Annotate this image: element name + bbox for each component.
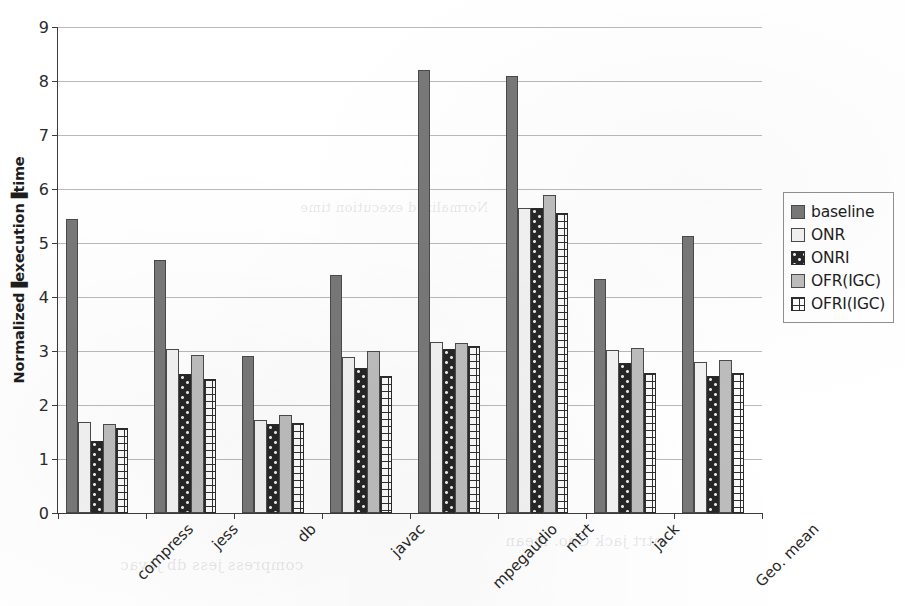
bar-group xyxy=(242,27,305,513)
y-axis-tick-label: 4 xyxy=(39,288,49,307)
legend-swatch-ofr-igc-icon xyxy=(791,274,805,288)
bar-group xyxy=(154,27,217,513)
x-axis-label-geo-mean: Geo. mean xyxy=(752,520,823,591)
bar-ofri-igc xyxy=(292,423,305,513)
x-axis-tick xyxy=(586,513,587,519)
bar-group xyxy=(330,27,393,513)
y-axis-tick xyxy=(52,405,58,406)
y-axis-tick xyxy=(52,189,58,190)
bar-baseline xyxy=(330,275,343,513)
chart-legend: baselineONRONRIOFR(IGC)OFRI(IGC) xyxy=(783,192,894,323)
bar-ofr-igc xyxy=(191,355,204,513)
bar-onri xyxy=(443,349,456,513)
y-axis-tick xyxy=(52,243,58,244)
bar-onri xyxy=(619,363,632,513)
x-axis-tick xyxy=(410,513,411,519)
bar-baseline xyxy=(418,70,431,513)
bar-onri xyxy=(531,208,544,513)
y-axis-tick xyxy=(52,351,58,352)
x-axis-tick xyxy=(322,513,323,519)
y-axis-tick-label: 5 xyxy=(39,234,49,253)
bar-ofri-igc xyxy=(116,428,129,513)
bar-ofr-igc xyxy=(279,415,292,513)
bar-onri xyxy=(267,424,280,513)
bar-onr xyxy=(78,422,91,513)
y-axis-tick xyxy=(52,81,58,82)
bar-ofr-igc xyxy=(543,195,556,513)
bar-onr xyxy=(606,350,619,513)
y-axis-tick xyxy=(52,297,58,298)
legend-label: OFRI(IGC) xyxy=(811,295,885,313)
y-axis-tick-label: 3 xyxy=(39,342,49,361)
legend-item-onr: ONR xyxy=(791,223,885,246)
bar-ofr-igc xyxy=(631,348,644,513)
y-axis-tick xyxy=(52,135,58,136)
bar-baseline xyxy=(594,279,607,513)
legend-item-ofr-igc: OFR(IGC) xyxy=(791,269,885,292)
bar-group xyxy=(66,27,129,513)
y-axis-tick-label: 1 xyxy=(39,450,49,469)
bar-onri xyxy=(355,368,368,513)
bar-baseline xyxy=(66,219,79,513)
bar-ofri-igc xyxy=(204,379,217,513)
x-axis-label-jack: jack xyxy=(648,520,682,554)
bar-baseline xyxy=(154,260,167,513)
legend-swatch-ofri-igc-icon xyxy=(791,297,805,311)
x-axis-label-db: db xyxy=(293,520,319,546)
bar-baseline xyxy=(242,356,255,513)
bar-onr xyxy=(694,362,707,513)
y-axis-tick xyxy=(52,459,58,460)
bar-ofr-igc xyxy=(367,351,380,513)
y-axis-tick-label: 2 xyxy=(39,396,49,415)
bar-ofr-igc xyxy=(455,343,468,513)
bar-baseline xyxy=(506,76,519,513)
y-axis-tick-label: 9 xyxy=(39,18,49,37)
bar-onr xyxy=(518,208,531,513)
bar-ofri-igc xyxy=(468,346,481,513)
bar-group xyxy=(506,27,569,513)
y-axis-tick-label: 0 xyxy=(39,504,49,523)
x-axis-tick xyxy=(674,513,675,519)
bar-group xyxy=(682,27,745,513)
x-axis-label-javac: javac xyxy=(387,520,428,561)
x-axis-label-mtrt: mtrt xyxy=(561,520,597,556)
x-axis-tick xyxy=(58,513,59,519)
x-axis-tick xyxy=(498,513,499,519)
x-axis-tick xyxy=(234,513,235,519)
bar-onr xyxy=(254,420,267,513)
legend-label: baseline xyxy=(811,203,874,221)
x-axis-tick xyxy=(146,513,147,519)
bar-ofri-igc xyxy=(732,373,745,513)
bar-ofri-igc xyxy=(644,373,657,513)
y-axis-tick xyxy=(52,27,58,28)
y-axis-tick-label: 6 xyxy=(39,180,49,199)
bar-onr xyxy=(430,342,443,513)
bar-ofri-igc xyxy=(380,376,393,513)
x-axis-label-jess: jess xyxy=(208,520,241,553)
x-axis-label-mpegaudio: mpegaudio xyxy=(488,520,560,592)
bar-onri xyxy=(91,441,104,513)
y-axis-tick-label: 8 xyxy=(39,72,49,91)
bar-ofr-igc xyxy=(719,360,732,513)
bar-ofri-igc xyxy=(556,213,569,513)
legend-item-ofri-igc: OFRI(IGC) xyxy=(791,292,885,315)
y-axis-tick-label: 7 xyxy=(39,126,49,145)
legend-label: ONRI xyxy=(811,249,849,267)
legend-label: OFR(IGC) xyxy=(811,272,881,290)
legend-swatch-onr-icon xyxy=(791,228,805,242)
x-axis-tick xyxy=(762,513,763,519)
bar-ofr-igc xyxy=(103,424,116,513)
bar-group xyxy=(418,27,481,513)
bar-onr xyxy=(166,349,179,513)
legend-swatch-baseline-icon xyxy=(791,205,805,219)
legend-label: ONR xyxy=(811,226,845,244)
bar-chart: Normalized▐execution▐time 0123456789 com… xyxy=(0,0,905,606)
bar-group xyxy=(594,27,657,513)
legend-item-baseline: baseline xyxy=(791,200,885,223)
bar-onri xyxy=(179,374,192,513)
x-axis-label-compress: compress xyxy=(133,520,197,584)
bar-onri xyxy=(707,376,720,513)
legend-item-onri: ONRI xyxy=(791,246,885,269)
bar-baseline xyxy=(682,236,695,513)
bar-onr xyxy=(342,357,355,513)
